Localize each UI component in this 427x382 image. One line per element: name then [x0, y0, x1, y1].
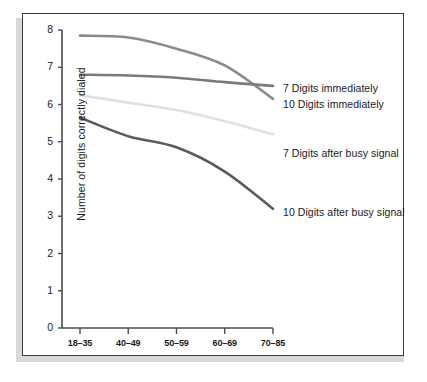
y-tick-label: 2 — [33, 247, 53, 259]
y-tick-label: 1 — [33, 284, 53, 296]
chart-frame: Number of digits correctly dialed 012345… — [22, 13, 404, 356]
y-tick-label: 3 — [33, 209, 53, 221]
x-tick-label: 70–85 — [250, 338, 296, 348]
series-label-1: 7 Digits immediately — [283, 82, 378, 94]
y-tick-label: 4 — [33, 172, 53, 184]
x-tick-label: 50–59 — [154, 338, 200, 348]
series-label-3: 7 Digits after busy signal — [283, 147, 399, 159]
series-label-2: 10 Digits immediately — [283, 98, 384, 110]
y-tick-label: 0 — [33, 321, 53, 333]
series-line-4 — [80, 118, 273, 209]
series-lines-group — [80, 36, 273, 209]
y-tick-label: 7 — [33, 60, 53, 72]
x-tick-marks — [80, 328, 273, 334]
series-label-4: 10 Digits after busy signal — [283, 206, 405, 218]
x-tick-label: 60–69 — [202, 338, 248, 348]
series-line-1 — [80, 36, 273, 99]
y-axis-title: Number of digits correctly dialed — [75, 44, 87, 244]
x-tick-label: 18–35 — [57, 338, 103, 348]
y-tick-label: 5 — [33, 135, 53, 147]
y-tick-label: 6 — [33, 98, 53, 110]
y-tick-label: 8 — [33, 23, 53, 35]
chart-figure: Number of digits correctly dialed 012345… — [0, 0, 427, 382]
x-tick-label: 40–49 — [105, 338, 151, 348]
